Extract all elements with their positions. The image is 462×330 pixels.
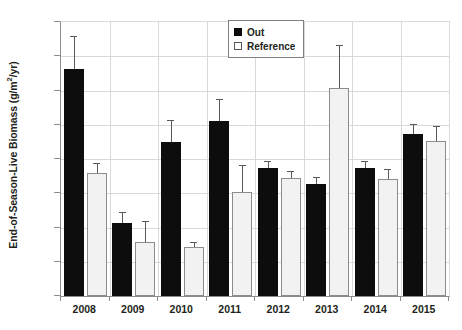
error-bar [365,162,366,169]
x-axis-tick-mark [60,296,61,301]
x-axis-tick-label-2010: 2010 [157,303,205,315]
x-axis-tick-mark [400,296,401,301]
x-axis-tick-label-2012: 2012 [254,303,302,315]
bar-group [304,22,353,296]
error-bar [145,222,146,243]
error-bar-cap [433,126,440,127]
category-separator [110,22,111,296]
bar-group [110,22,159,296]
x-axis-tick-label-2015: 2015 [400,303,448,315]
chart-figure: End-of-Season-Live Biomass (g/m2/yr) 020… [0,0,462,330]
y-axis-title-superscript: 2 [6,77,15,81]
legend-label-reference: Reference [247,41,295,52]
legend-swatch-reference-icon [234,42,242,50]
bar-reference-2013 [329,88,349,296]
y-axis-title-text: End-of-Season-Live Biomass (g/m2/yr) [7,61,19,248]
x-axis-tick-label-2008: 2008 [60,303,108,315]
error-bar-cap [142,221,149,222]
error-bar [74,37,75,69]
bar-group [207,22,256,296]
category-separator [207,22,208,296]
error-bar-cap [190,242,197,243]
error-bar-cap [336,45,343,46]
error-bar [291,172,292,178]
chart-legend: Out Reference [228,20,304,58]
bar-reference-2014 [378,179,398,296]
legend-item-reference: Reference [234,39,295,53]
bar-out-2013 [306,184,326,296]
y-axis-title-tail: /yr) [7,61,19,77]
error-bar-cap [410,124,417,125]
x-axis-tick-mark [448,296,449,301]
error-bar [316,178,317,184]
legend-item-out: Out [234,25,295,39]
error-bar-cap [384,169,391,170]
error-bar-cap [216,99,223,100]
error-bar-cap [287,171,294,172]
bar-reference-2012 [281,178,301,296]
error-bar-cap [119,212,126,213]
error-bar-cap [313,177,320,178]
category-separator [401,22,402,296]
x-axis-tick-label-2009: 2009 [109,303,157,315]
bar-group [255,22,304,296]
bar-out-2009 [112,223,132,296]
bar-out-2012 [258,168,278,296]
bar-reference-2011 [232,192,252,296]
bar-reference-2008 [87,173,107,296]
error-bar-cap [70,36,77,37]
bar-group [158,22,207,296]
error-bar [388,170,389,179]
bar-out-2014 [355,168,375,296]
error-bar-cap [361,161,368,162]
bar-out-2008 [64,69,84,296]
x-axis-tick-mark [254,296,255,301]
bar-out-2010 [161,142,181,296]
bar-reference-2015 [426,141,446,296]
x-axis-tick-label-2011: 2011 [206,303,254,315]
x-axis-tick-mark [351,296,352,301]
error-bar [122,213,123,223]
x-axis-tick-mark [157,296,158,301]
x-axis-tick-label-2013: 2013 [303,303,351,315]
category-separator [255,22,256,296]
y-axis-title: End-of-Season-Live Biomass (g/m2/yr) [0,0,26,310]
category-separator [158,22,159,296]
x-axis-tick-mark [206,296,207,301]
error-bar-cap [93,163,100,164]
category-separator [352,22,353,296]
error-bar-cap [167,120,174,121]
bar-group [401,22,450,296]
bar-out-2015 [403,134,423,296]
error-bar [171,121,172,142]
legend-swatch-out-icon [234,28,242,36]
plot-area [60,21,450,297]
error-bar [268,162,269,168]
error-bar [219,100,220,121]
bar-out-2011 [209,121,229,296]
error-bar [413,125,414,134]
error-bar [242,166,243,192]
bar-reference-2010 [184,247,204,296]
y-axis-title-main: End-of-Season-Live Biomass (g/m [7,81,19,248]
bar-reference-2009 [135,242,155,296]
x-axis-tick-mark [109,296,110,301]
x-axis-tick-mark [303,296,304,301]
bar-group [61,22,110,296]
error-bar-cap [239,165,246,166]
x-axis-tick-label-2014: 2014 [351,303,399,315]
bar-group [352,22,401,296]
legend-label-out: Out [247,27,264,38]
error-bar [97,164,98,173]
error-bar [339,46,340,88]
error-bar-cap [264,161,271,162]
category-separator [304,22,305,296]
error-bar [436,127,437,141]
error-bar [194,243,195,247]
